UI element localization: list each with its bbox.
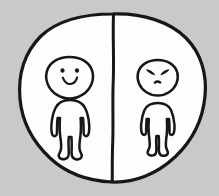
left-figure-eye-right (75, 68, 79, 72)
right-figure-head (138, 60, 178, 96)
left-figure-eye-left (60, 68, 64, 72)
divider-group (112, 14, 113, 182)
vertical-divider-line (112, 14, 113, 182)
right-figure-frown-mouth (155, 82, 160, 83)
drawing-surface (0, 0, 219, 196)
illustration-canvas (0, 0, 219, 196)
left-figure-head (46, 57, 93, 99)
